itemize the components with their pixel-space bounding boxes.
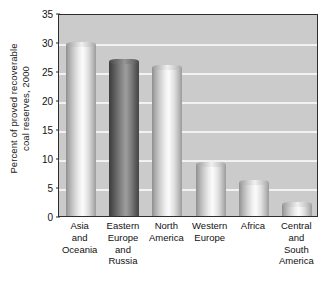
bar-body: [239, 183, 269, 216]
y-axis-tick-30: 30: [42, 38, 53, 49]
x-axis-category-label: Africa: [231, 220, 274, 232]
bar-top-cap: [282, 202, 312, 207]
x-axis-category-label: North America: [145, 220, 188, 244]
bar-body: [109, 62, 139, 216]
bar-top-cap: [239, 180, 269, 185]
x-axis-category-label: Western Europe: [188, 220, 231, 244]
y-axis-tick-10: 10: [42, 154, 53, 165]
bar-series: [59, 15, 317, 216]
y-axis-label: Percent of proved recoverable coal reser…: [8, 11, 31, 206]
x-axis-tick-labels: Asia and OceaniaEastern Europe and Russi…: [58, 220, 318, 281]
bar-top-cap: [196, 162, 226, 167]
x-axis-category-label: Asia and Oceania: [58, 220, 101, 255]
y-axis-tick-0: 0: [47, 212, 53, 223]
chart-figure: Percent of proved recoverable coal reser…: [0, 0, 329, 281]
y-axis-tick-20: 20: [42, 96, 53, 107]
bar-top-cap: [109, 59, 139, 64]
bar-top-cap: [152, 65, 182, 70]
bar: [152, 65, 182, 216]
bar: [66, 42, 96, 216]
y-axis-label-container: Percent of proved recoverable coal reser…: [0, 0, 34, 225]
bar-top-cap: [66, 42, 96, 47]
y-axis-tick-labels: 05101520253035: [30, 14, 56, 217]
bar-body: [152, 68, 182, 216]
bar-body: [196, 165, 226, 216]
bar: [282, 202, 312, 216]
x-axis-category-label: Central and South America: [275, 220, 318, 267]
bar: [109, 59, 139, 216]
y-axis-tick-5: 5: [47, 183, 53, 194]
x-axis-category-label: Eastern Europe and Russia: [101, 220, 144, 267]
y-axis-tick-25: 25: [42, 67, 53, 78]
plot-area: [58, 14, 318, 217]
y-axis-tick-15: 15: [42, 125, 53, 136]
bar: [239, 180, 269, 216]
bar-body: [66, 45, 96, 216]
y-axis-tick-35: 35: [42, 9, 53, 20]
bar: [196, 162, 226, 216]
